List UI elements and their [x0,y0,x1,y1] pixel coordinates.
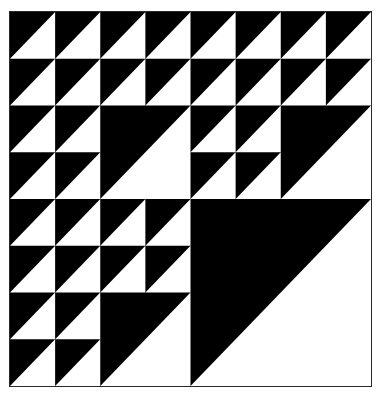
artwork-page [0,0,388,412]
fractal-svg-canvas [10,12,371,386]
fractal-figure [10,12,371,386]
